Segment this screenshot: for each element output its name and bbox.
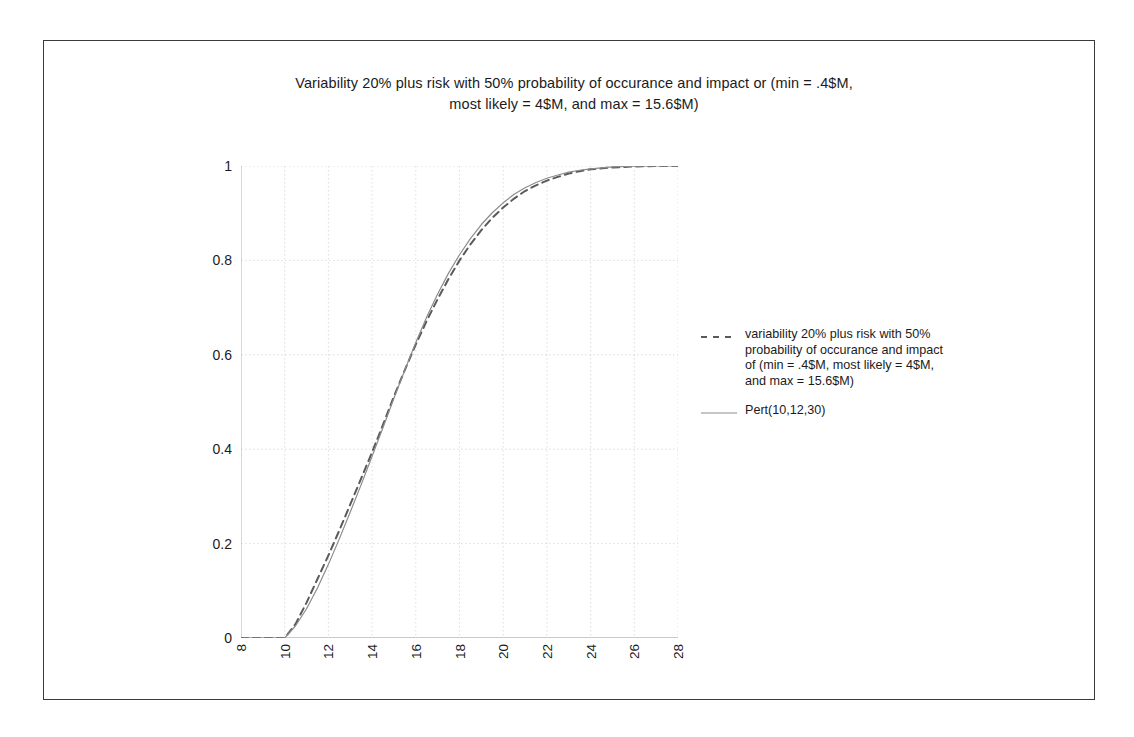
x-tick-label: 10 (277, 644, 292, 659)
y-tick-label: 0.2 (213, 536, 232, 552)
x-tick-label: 22 (539, 644, 554, 659)
plot-area (241, 166, 678, 638)
x-tick-label: 12 (321, 644, 336, 659)
y-tick-label: 0.4 (213, 441, 232, 457)
legend-entry: Pert(10,12,30) (701, 403, 971, 421)
plot-svg (241, 166, 678, 638)
legend-label: variability 20% plus risk with 50%probab… (745, 327, 943, 389)
legend-dashed-line-icon (701, 329, 737, 345)
legend-label: Pert(10,12,30) (745, 403, 826, 419)
legend-label-line: variability 20% plus risk with 50% (745, 327, 943, 343)
chart-title-line-2: most likely = 4$M, and max = 15.6$M) (174, 94, 974, 115)
y-tick-label: 0 (224, 630, 232, 646)
legend-label-line: Pert(10,12,30) (745, 403, 826, 419)
x-tick-label: 14 (365, 644, 380, 659)
chart-page: Variability 20% plus risk with 50% proba… (0, 0, 1134, 737)
x-tick-label: 28 (671, 644, 686, 659)
x-tick-label: 16 (408, 644, 423, 659)
gridlines (241, 166, 678, 638)
legend-label-line: of (min = .4$M, most likely = 4$M, (745, 358, 943, 374)
chart-legend: variability 20% plus risk with 50%probab… (701, 327, 971, 435)
x-tick-label: 8 (234, 644, 249, 652)
legend-solid-line-icon (701, 405, 737, 421)
chart-frame: Variability 20% plus risk with 50% proba… (43, 40, 1095, 700)
x-tick-label: 18 (452, 644, 467, 659)
y-tick-label: 0.6 (213, 347, 232, 363)
y-tick-label: 1 (224, 158, 232, 174)
legend-label-line: and max = 15.6$M) (745, 374, 943, 390)
chart-title-line-1: Variability 20% plus risk with 50% proba… (295, 75, 853, 91)
plot-wrapper: 00.20.40.60.81 810121416182022242628 (241, 166, 678, 638)
legend-label-line: probability of occurance and impact (745, 343, 943, 359)
x-tick-label: 24 (583, 644, 598, 659)
legend-entry: variability 20% plus risk with 50%probab… (701, 327, 971, 389)
x-tick-label: 20 (496, 644, 511, 659)
y-tick-label: 0.8 (213, 252, 232, 268)
chart-title: Variability 20% plus risk with 50% proba… (174, 73, 974, 115)
x-tick-label: 26 (627, 644, 642, 659)
